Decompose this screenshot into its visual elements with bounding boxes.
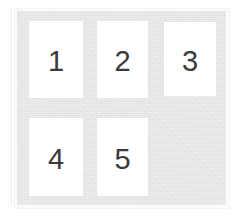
left-margin-rule	[11, 8, 12, 204]
grid-card-5[interactable]: 5	[97, 118, 148, 196]
grid-card-4-label: 4	[48, 145, 64, 174]
grid-card-1-label: 1	[48, 47, 64, 76]
grid-card-2-label: 2	[114, 47, 130, 76]
grid-card-4[interactable]: 4	[29, 118, 83, 196]
numbered-card-grid: 1 2 3 4 5	[17, 11, 226, 205]
grid-card-5-label: 5	[114, 145, 130, 174]
grid-slot-6-empty[interactable]	[164, 118, 216, 196]
page-canvas: 1 2 3 4 5	[0, 0, 242, 219]
grid-card-3-label: 3	[182, 47, 198, 76]
grid-card-1[interactable]: 1	[29, 21, 83, 98]
grid-card-2[interactable]: 2	[97, 21, 148, 98]
grid-card-3[interactable]: 3	[164, 22, 216, 96]
